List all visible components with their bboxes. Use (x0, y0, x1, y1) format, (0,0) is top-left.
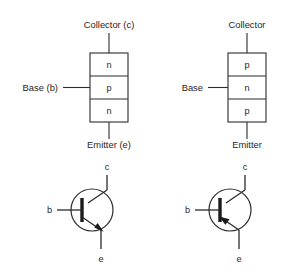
npn-base-label: Base (b) (23, 82, 58, 93)
npn-circuit-symbol: c b e (47, 162, 113, 264)
npn-layer-base: p (106, 83, 111, 93)
pnp-emitter-label: Emitter (232, 139, 262, 150)
pnp-base-label: Base (182, 82, 203, 93)
transistor-figure: Collector (c) n p n Base (b) Emitter (e)… (0, 0, 284, 274)
pnp-layer-collector: p (244, 60, 249, 70)
figure-canvas: Collector (c) n p n Base (b) Emitter (e)… (0, 0, 284, 274)
npn-layer-emitter: n (106, 106, 111, 116)
pnp-collector-label: Collector (229, 19, 266, 30)
npn-symbol-emitter-pin: e (98, 254, 103, 264)
pnp-symbol-collector-pin: c (243, 162, 248, 172)
pnp-structure-diagram: Collector p n p Base Emitter (182, 19, 266, 150)
pnp-symbol-base-pin: b (185, 205, 190, 215)
pnp-symbol-emitter-pin: e (236, 254, 241, 264)
pnp-symbol-collector-slant (226, 190, 245, 203)
npn-symbol-collector-slant (88, 190, 107, 203)
npn-emitter-label: Emitter (e) (87, 139, 131, 150)
npn-symbol-collector-pin: c (105, 162, 110, 172)
npn-structure-diagram: Collector (c) n p n Base (b) Emitter (e) (23, 19, 135, 150)
npn-layer-collector: n (106, 60, 111, 70)
pnp-circuit-symbol: c b e (185, 162, 251, 264)
pnp-layer-emitter: p (244, 106, 249, 116)
pnp-layer-base: n (244, 83, 249, 93)
npn-symbol-base-pin: b (47, 205, 52, 215)
npn-collector-label: Collector (c) (84, 19, 135, 30)
